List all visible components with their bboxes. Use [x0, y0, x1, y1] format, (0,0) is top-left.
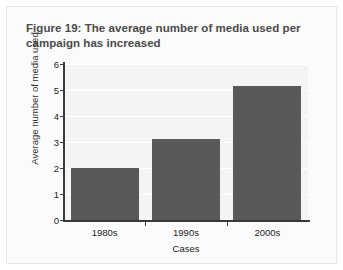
y-axis-tick-label: 2 [41, 163, 59, 174]
y-axis-tick-label: 5 [41, 85, 59, 96]
bar-chart: Average number of media used 0123456 198… [7, 7, 338, 265]
figure-panel: Figure 19: The average number of media u… [6, 6, 337, 264]
y-axis-tick-label: 4 [41, 111, 59, 122]
bar [152, 139, 220, 220]
y-axis-tick-label: 6 [41, 59, 59, 70]
x-axis-line [63, 220, 310, 222]
y-axis-tick-mark [60, 142, 64, 143]
x-axis-tick-mark [227, 222, 228, 226]
y-axis-tick-mark [60, 168, 64, 169]
y-axis-tick-label: 0 [41, 215, 59, 226]
x-axis-tick-label: 2000s [254, 227, 280, 238]
plot-area [64, 64, 308, 220]
x-axis-tick-mark [145, 222, 146, 226]
y-axis-tick-mark [60, 220, 64, 221]
y-axis-tick-mark [60, 194, 64, 195]
y-axis-tick-mark [60, 90, 64, 91]
bar [71, 168, 139, 220]
y-axis-tick-mark [60, 64, 64, 65]
y-axis-tick-label: 1 [41, 189, 59, 200]
y-axis-tick-mark [60, 116, 64, 117]
gridline [64, 64, 308, 65]
y-axis-label: Average number of media used [29, 24, 40, 174]
y-axis-tick-label: 3 [41, 137, 59, 148]
x-axis-tick-label: 1980s [92, 227, 118, 238]
y-axis-ticks: 0123456 [39, 64, 59, 220]
bar [233, 86, 301, 220]
x-axis-tick-label: 1990s [173, 227, 199, 238]
x-axis-label: Cases [64, 243, 308, 254]
